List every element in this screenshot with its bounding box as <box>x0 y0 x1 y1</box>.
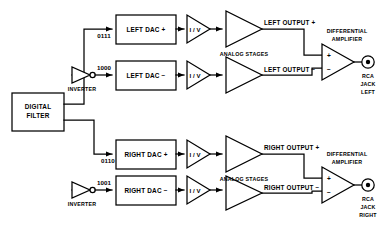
left-inverted-code-label: 1000 <box>97 64 112 71</box>
right-diffamp-title-line1: DIFFERENTIAL <box>327 151 368 157</box>
diagram-canvas: DIGITAL FILTER INVERTER 0111 1000 LEFT D… <box>0 0 389 229</box>
digital-filter-label-line1: DIGITAL <box>25 103 52 110</box>
right-minus-iv-label: I / V <box>189 188 200 194</box>
dac-block-diagram: DIGITAL FILTER INVERTER 0111 1000 LEFT D… <box>0 0 389 229</box>
left-direct-code-label: 0111 <box>97 32 111 39</box>
right-jack-label-line1: RCA <box>362 196 374 202</box>
right-inverter-label: INVERTER <box>68 201 96 207</box>
left-output-minus-label: LEFT OUTPUT − <box>264 66 316 73</box>
left-dac-minus-label: LEFT DAC − <box>126 72 165 79</box>
left-diffamp-minus-input-label: − <box>327 66 331 73</box>
right-direct-code-label: 0110 <box>101 157 115 164</box>
left-minus-analog-stage <box>226 57 262 93</box>
right-inverted-code-label: 1001 <box>97 179 112 186</box>
right-dac-minus-label: RIGHT DAC − <box>124 187 167 194</box>
right-diffamp-plus-input-label: + <box>327 175 331 182</box>
right-diffamp-title-line2: AMPLIFIER <box>332 159 362 165</box>
left-plus-iv-stage: I / V <box>187 15 210 43</box>
left-diffamp-title-line2: AMPLIFIER <box>332 36 362 42</box>
right-plus-iv-stage: I / V <box>187 140 210 168</box>
left-output-plus-label: LEFT OUTPUT + <box>264 19 316 26</box>
right-output-plus-wire <box>262 154 322 178</box>
left-output-plus-wire <box>262 29 322 55</box>
left-differential-amplifier: + − <box>322 44 354 80</box>
right-output-minus-wire <box>262 191 322 193</box>
left-jack-label-line3: LEFT <box>361 89 376 95</box>
right-rca-jack <box>354 179 374 191</box>
right-dac-minus-block: RIGHT DAC − <box>116 176 176 205</box>
right-plus-analog-stage <box>226 136 262 172</box>
left-diffamp-plus-input-label: + <box>327 52 331 59</box>
right-dac-plus-block: RIGHT DAC + <box>116 140 176 169</box>
right-dac-plus-label: RIGHT DAC + <box>124 151 167 158</box>
left-jack-label-line2: JACK <box>360 81 375 87</box>
left-dac-plus-block: LEFT DAC + <box>116 15 176 44</box>
right-plus-iv-label: I / V <box>189 152 200 158</box>
left-rca-jack <box>354 56 374 68</box>
right-minus-iv-stage: I / V <box>187 176 210 204</box>
left-analog-stages-label: ANALOG STAGES <box>220 51 269 57</box>
right-output-minus-label: RIGHT OUTPUT − <box>264 184 320 191</box>
left-plus-analog-stage <box>226 11 262 47</box>
left-jack-label-line1: RCA <box>362 73 374 79</box>
left-minus-iv-label: I / V <box>189 73 200 79</box>
left-diffamp-title-line1: DIFFERENTIAL <box>327 28 368 34</box>
right-jack-label-line3: RIGHT <box>359 212 377 218</box>
left-inverter-label: INVERTER <box>68 86 96 92</box>
digital-filter-block: DIGITAL FILTER <box>12 93 64 131</box>
right-differential-amplifier: + − <box>322 167 354 203</box>
left-dac-minus-block: LEFT DAC − <box>116 61 176 90</box>
right-diffamp-minus-input-label: − <box>327 189 331 196</box>
right-analog-stages-label: ANALOG STAGES <box>220 176 269 182</box>
left-dac-plus-label: LEFT DAC + <box>126 26 165 33</box>
right-output-plus-label: RIGHT OUTPUT + <box>264 144 320 151</box>
right-jack-label-line2: JACK <box>360 204 375 210</box>
digital-filter-label-line2: FILTER <box>26 112 49 119</box>
left-plus-iv-label: I / V <box>189 27 200 33</box>
left-minus-iv-stage: I / V <box>187 61 210 89</box>
